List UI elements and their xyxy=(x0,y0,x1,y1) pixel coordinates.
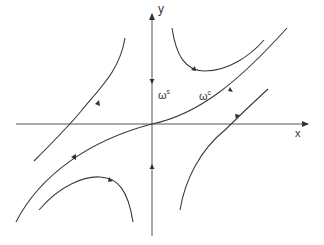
phase-portrait-diagram xyxy=(0,0,324,245)
stable-manifold-label: ωs xyxy=(158,88,170,101)
center-manifold-label: ωc xyxy=(199,89,211,102)
lower-right-trajectory xyxy=(180,89,268,210)
upper-left-arrow-icon xyxy=(95,100,100,106)
upper-left-trajectory xyxy=(34,38,125,161)
y-axis-up-arrow-icon xyxy=(150,164,155,169)
x-axis-label: x xyxy=(295,128,301,139)
center-manifold-arrow-icon xyxy=(228,87,233,92)
lower-left-trajectory xyxy=(39,177,133,222)
y-axis-label: y xyxy=(158,3,164,15)
upper-right-trajectory xyxy=(172,28,264,71)
y-axis-down-arrow-icon xyxy=(150,79,155,84)
